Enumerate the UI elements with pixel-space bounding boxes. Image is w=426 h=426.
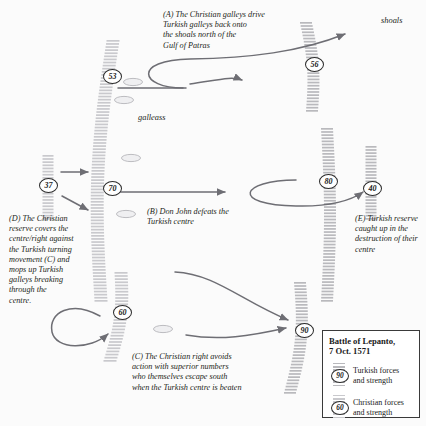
legend-text-0: Turkish forces and strength — [353, 366, 399, 385]
legend-marker-90: 90 — [331, 369, 349, 383]
legend-row-1: 60Christian forces and strength — [329, 395, 413, 421]
strength-marker-53: 53 — [103, 69, 122, 84]
legend-marker-60: 60 — [331, 401, 349, 415]
legend-title: Battle of Lepanto, 7 Oct. 1571 — [329, 336, 413, 357]
label-galleass: galleass — [138, 113, 165, 122]
legend-symbol-0: 90 — [329, 363, 353, 389]
legend-box: Battle of Lepanto, 7 Oct. 1571 90Turkish… — [322, 330, 420, 418]
battle-map: (A) The Christian galleys drive Turkish … — [0, 0, 426, 426]
legend-rows: 90Turkish forces and strength60Christian… — [329, 363, 413, 421]
note-b: (B) Don John defeats the Turkish centre — [147, 207, 287, 227]
legend-text-1: Christian forces and strength — [353, 398, 404, 417]
arrow-north-straight — [190, 78, 242, 84]
strength-marker-70: 70 — [103, 181, 122, 196]
strength-marker-40: 40 — [363, 181, 382, 196]
legend-symbol-1: 60 — [329, 395, 353, 421]
legend-row-0: 90Turkish forces and strength — [329, 363, 413, 389]
galleass-oval-0 — [124, 78, 143, 85]
arrow-centre-hook — [250, 180, 363, 206]
strength-marker-90: 90 — [295, 323, 314, 338]
note-d: (D) The Christian reserve covers the cen… — [9, 214, 101, 306]
note-c: (C) The Christian right avoids action wi… — [132, 352, 297, 393]
strength-marker-80: 80 — [319, 174, 338, 189]
arrow-south-escape — [175, 272, 288, 320]
arrow-reserve-down — [62, 196, 88, 210]
galleass-oval-2 — [122, 154, 141, 161]
arrow-south-lower — [186, 328, 286, 338]
galleass-oval-1 — [115, 96, 134, 103]
turkish-line-centre — [321, 128, 336, 302]
arrow-reserve-loop — [52, 309, 108, 346]
galleass-oval-3 — [117, 210, 136, 217]
note-a: (A) The Christian galleys drive Turkish … — [163, 10, 303, 51]
strength-marker-37: 37 — [39, 178, 58, 193]
strength-marker-56: 56 — [305, 57, 324, 72]
label-shoals: shoals — [381, 16, 402, 25]
note-e: (E) Turkish reserve caught up in the des… — [355, 214, 425, 255]
strength-marker-60: 60 — [113, 305, 132, 320]
galleass-oval-4 — [154, 325, 173, 332]
